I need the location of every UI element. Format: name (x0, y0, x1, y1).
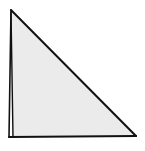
triangle-diagram (0, 0, 145, 151)
triangle-base (9, 136, 136, 137)
